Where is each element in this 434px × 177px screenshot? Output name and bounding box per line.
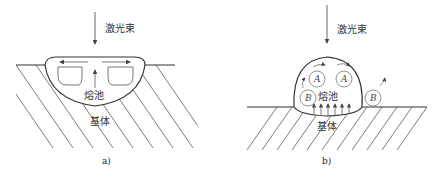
panel-a-caption: a) xyxy=(102,156,111,166)
laser-beam-label: 激光束 xyxy=(337,25,367,35)
vortex-label-a-right: A xyxy=(341,74,348,84)
substrate-label: 基体 xyxy=(90,117,110,127)
panel-b-caption: b) xyxy=(322,156,331,166)
melt-pool-label: 熔池 xyxy=(318,92,338,102)
substrate-label: 基体 xyxy=(317,122,337,132)
panel-b-drawing xyxy=(217,0,434,177)
vortex-label-a-left: A xyxy=(314,74,321,84)
vortex-label-b-right: B xyxy=(370,93,377,103)
vortex-label-b-left: B xyxy=(305,93,312,103)
melt-pool-label: 熔池 xyxy=(84,91,104,101)
laser-beam-label: 激光束 xyxy=(105,24,135,34)
panel-a-submerged-melt-pool: 激光束 熔池 基体 a) xyxy=(0,0,217,177)
panel-b-dome-melt-pool: 激光束 熔池 基体 A A B B b) xyxy=(217,0,434,177)
